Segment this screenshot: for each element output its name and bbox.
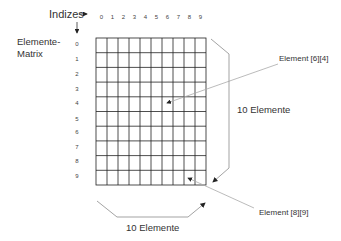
- callout-leader-8-9: [188, 178, 254, 208]
- horizontal-size-bracket: [97, 201, 205, 217]
- callout-label-6-4: Element [6][4]: [279, 54, 328, 63]
- callout-label-8-9: Element [8][9]: [259, 208, 308, 217]
- horizontal-size-label: 10 Elemente: [126, 222, 179, 233]
- matrix-diagram: [0, 0, 341, 241]
- matrix-grid: [96, 38, 206, 185]
- vertical-size-bracket: [211, 39, 229, 182]
- vertical-size-label: 10 Elemente: [237, 104, 290, 115]
